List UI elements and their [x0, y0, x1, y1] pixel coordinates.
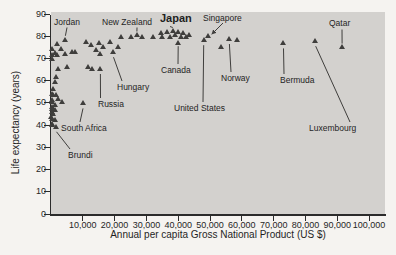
country-label-japan: Japan: [160, 13, 192, 23]
country-label-new-zealand: New Zealand: [102, 17, 152, 27]
y-tick-label: 60: [24, 75, 46, 86]
data-point-triangle: [170, 28, 176, 33]
data-point-triangle: [107, 39, 113, 44]
data-point-triangle: [69, 49, 75, 54]
data-point-triangle: [312, 38, 318, 43]
y-tick-label: 70: [24, 53, 46, 64]
country-label-hungary: Hungary: [117, 82, 149, 92]
data-point-triangle: [134, 32, 140, 37]
country-label-bermuda: Bermuda: [280, 75, 315, 85]
data-point-triangle: [54, 52, 60, 57]
data-point-triangle: [62, 51, 68, 56]
y-tick-label: 50: [24, 97, 46, 108]
country-label-qatar: Qatar: [329, 18, 350, 28]
y-tick-label: 20: [24, 164, 46, 175]
data-point-triangle: [100, 44, 106, 49]
data-point-triangle: [97, 51, 103, 56]
data-point-triangle: [175, 40, 181, 45]
data-point-triangle: [62, 37, 68, 42]
country-label-norway: Norway: [221, 73, 250, 83]
country-label-united-states: United States: [174, 103, 225, 113]
y-tick-label: 40: [24, 120, 46, 131]
data-point-triangle: [186, 32, 192, 37]
data-point-triangle: [128, 34, 134, 39]
data-point-triangle: [159, 34, 165, 39]
y-tick-label: 80: [24, 31, 46, 42]
data-point-triangle: [55, 66, 61, 71]
scatter-figure: Life expectancy (years) Annual per capit…: [0, 0, 396, 255]
x-tick-label: 100,000: [345, 220, 393, 231]
data-point-triangle: [97, 66, 103, 71]
country-label-canada: Canada: [161, 65, 191, 75]
data-point-triangle: [164, 29, 170, 34]
data-point-triangle: [150, 34, 156, 39]
y-tick-label: 10: [24, 186, 46, 197]
data-point-triangle: [50, 86, 56, 91]
x-axis-line: [50, 214, 386, 216]
country-label-singapore: Singapore: [203, 13, 242, 23]
data-point-triangle: [59, 99, 65, 104]
data-point-triangle: [280, 40, 286, 45]
country-label-russia: Russia: [98, 99, 124, 109]
data-point-triangle: [53, 124, 59, 129]
data-point-triangle: [64, 64, 70, 69]
country-label-brundi: Brundi: [68, 150, 93, 160]
country-label-jordan: Jordan: [54, 17, 80, 27]
y-axis-title: Life expectancy (years): [10, 23, 23, 223]
data-point-triangle: [110, 49, 116, 54]
country-label-south-africa: South Africa: [61, 123, 107, 133]
data-point-triangle: [201, 37, 207, 42]
data-point-triangle: [58, 46, 64, 51]
data-point-triangle: [226, 36, 232, 41]
data-point-triangle: [118, 34, 124, 39]
y-tick-label: 0: [24, 209, 46, 220]
y-tick-label: 30: [24, 142, 46, 153]
data-point-triangle: [339, 44, 345, 49]
y-tick-label: 90: [24, 9, 46, 20]
data-point-triangle: [80, 100, 86, 105]
country-label-luxembourg: Luxembourg: [309, 123, 356, 133]
data-point-triangle: [52, 79, 58, 84]
data-point-triangle: [89, 66, 95, 71]
data-point-triangle: [218, 44, 224, 49]
data-point-triangle: [234, 37, 240, 42]
